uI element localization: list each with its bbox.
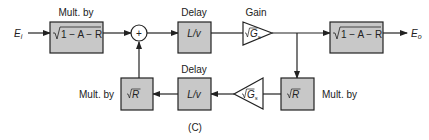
delay-top-title: Delay [181,7,207,18]
mult-r-left-title: Mult. by [79,89,114,100]
gain-title: Gain [245,7,266,18]
mult-out-expr: 1 − A − R [341,29,382,40]
mult-r-right-expr: R [292,89,299,100]
delay-bottom-expr: L/v [187,89,201,100]
mult-in-title: Mult. by [58,7,93,18]
input-label: Ei [14,28,23,40]
block-diagram: Ei Mult. by 1 − A − R + Delay L/v Gain G… [0,0,429,140]
caption: (C) [188,122,202,133]
mult-in-expr: 1 − A − R [61,29,102,40]
mult-r-right-title: Mult. by [322,89,357,100]
sum-symbol: + [136,28,142,39]
output-label: Eo [411,28,422,40]
delay-top-expr: L/v [187,28,201,39]
mult-r-left-expr: R [132,89,139,100]
delay-bottom-title: Delay [181,64,207,75]
